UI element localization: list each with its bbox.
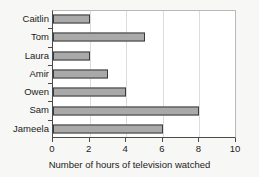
bar bbox=[53, 15, 90, 24]
y-axis-tick bbox=[48, 120, 52, 121]
x-axis-tick-label: 8 bbox=[196, 143, 201, 154]
bar bbox=[53, 106, 199, 115]
y-axis-tick bbox=[48, 47, 52, 48]
x-axis-tick bbox=[162, 138, 163, 142]
bar bbox=[53, 88, 126, 97]
bar-row bbox=[53, 47, 236, 65]
bar-chart: CaitlinTomLauraAmirOwenSamJameela Number… bbox=[0, 0, 259, 177]
bar-row bbox=[53, 28, 236, 46]
category-label: Caitlin bbox=[0, 10, 49, 28]
bar-row bbox=[53, 101, 236, 119]
bar bbox=[53, 69, 108, 78]
x-axis-tick-label: 10 bbox=[230, 143, 241, 154]
x-axis-title: Number of hours of television watched bbox=[0, 159, 259, 170]
y-axis-tick bbox=[48, 101, 52, 102]
y-axis-tick bbox=[48, 65, 52, 66]
bar bbox=[53, 124, 163, 133]
bars-layer bbox=[53, 10, 236, 138]
x-axis-tick bbox=[125, 138, 126, 142]
bar bbox=[53, 33, 145, 42]
x-axis-tick bbox=[198, 138, 199, 142]
x-axis-tick bbox=[89, 138, 90, 142]
category-label: Amir bbox=[0, 65, 49, 83]
y-axis-tick bbox=[48, 83, 52, 84]
bar-row bbox=[53, 83, 236, 101]
x-axis-tick-label: 2 bbox=[86, 143, 91, 154]
category-label: Owen bbox=[0, 83, 49, 101]
y-axis-tick bbox=[48, 28, 52, 29]
x-axis-tick-label: 4 bbox=[123, 143, 128, 154]
x-axis-tick bbox=[52, 138, 53, 142]
category-axis-labels: CaitlinTomLauraAmirOwenSamJameela bbox=[0, 10, 49, 138]
bar-row bbox=[53, 65, 236, 83]
x-axis-tick bbox=[235, 138, 236, 142]
category-label: Laura bbox=[0, 47, 49, 65]
category-label: Jameela bbox=[0, 120, 49, 138]
bar bbox=[53, 51, 90, 60]
x-axis-tick-label: 6 bbox=[159, 143, 164, 154]
category-label: Tom bbox=[0, 28, 49, 46]
category-label: Sam bbox=[0, 101, 49, 119]
x-axis-tick-label: 0 bbox=[49, 143, 54, 154]
bar-row bbox=[53, 120, 236, 138]
bar-row bbox=[53, 10, 236, 28]
